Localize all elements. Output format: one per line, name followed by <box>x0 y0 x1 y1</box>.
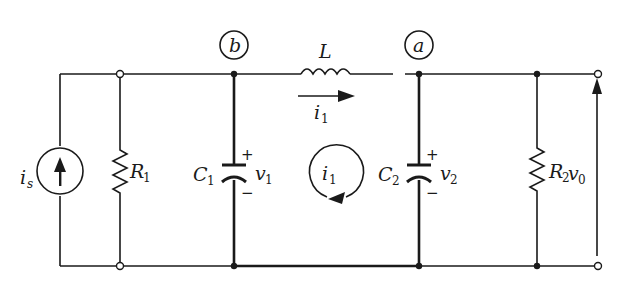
r1-resistor <box>113 77 127 263</box>
circuit-svg: b a L i 1 i s R 1 C 1 + − v 1 i 1 C 2 + … <box>0 0 623 290</box>
junction-dot <box>534 71 540 77</box>
c2-sub: 2 <box>392 174 400 188</box>
v0-arrowhead <box>592 78 602 94</box>
v2-sub: 2 <box>450 173 458 187</box>
v1-minus: − <box>241 184 254 202</box>
terminal-open <box>595 71 602 78</box>
r2-resistor <box>530 74 544 266</box>
v2-plus: + <box>426 146 439 164</box>
junction-dot <box>534 263 540 269</box>
source-arrow-shaft <box>59 168 61 186</box>
node-b-label: b <box>229 34 241 56</box>
terminal-open <box>117 263 124 270</box>
branch-current-sub: 1 <box>321 112 329 126</box>
node-a-label: a <box>413 34 424 56</box>
source-symbol: i <box>20 166 26 188</box>
c1-sub: 1 <box>207 174 215 188</box>
c1-symbol: C <box>193 163 208 185</box>
inductor-label: L <box>318 40 332 62</box>
v0-sub: 0 <box>578 173 586 187</box>
loop-current-sub: 1 <box>329 173 337 187</box>
loop-current-arrowhead <box>328 192 345 204</box>
junction-dot <box>231 263 237 269</box>
branch-current-arrowhead <box>338 90 355 102</box>
v1-plus: + <box>241 146 254 164</box>
terminal-open <box>117 71 124 78</box>
c2-symbol: C <box>378 163 393 185</box>
source-sub: s <box>27 177 33 191</box>
v2-minus: − <box>426 184 439 202</box>
r1-sub: 1 <box>143 171 151 185</box>
junction-dot <box>416 263 422 269</box>
loop-current-arc <box>309 145 363 197</box>
v1-sub: 1 <box>265 173 273 187</box>
junction-dot <box>231 71 237 77</box>
junction-dot <box>416 71 422 77</box>
loop-current-symbol: i <box>322 162 328 184</box>
inductor-coil <box>301 69 350 74</box>
branch-current-symbol: i <box>314 101 320 123</box>
terminal-open <box>595 263 602 270</box>
circuit-diagram: b a L i 1 i s R 1 C 1 + − v 1 i 1 C 2 + … <box>0 0 623 290</box>
